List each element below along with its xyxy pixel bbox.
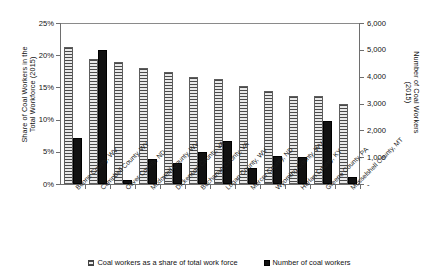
right-tick-4000: 4,000	[367, 72, 401, 81]
right-tick--: -	[367, 180, 401, 189]
legend-item-count: Number of coal workers	[264, 258, 351, 267]
right-tickmark	[360, 23, 364, 24]
legend-item-share: Coal workers as a share of total work fo…	[88, 258, 237, 267]
bar-count	[323, 121, 332, 184]
x-tickmark	[360, 185, 361, 189]
right-tickmark	[360, 104, 364, 105]
bar-group	[60, 23, 85, 184]
bar-count	[73, 138, 82, 184]
right-tickmark	[360, 50, 364, 51]
left-tick-25: 25%	[24, 19, 54, 28]
left-tick-5: 5%	[24, 147, 54, 156]
x-axis-category-labels: Boone County, WVCampbell County, WYOlive…	[60, 186, 360, 248]
left-tick-15: 15%	[24, 83, 54, 92]
chart-legend: Coal workers as a share of total work fo…	[0, 258, 439, 267]
right-tick-2000: 2,000	[367, 126, 401, 135]
left-tickmark	[56, 184, 60, 185]
right-axis-title: Number of Coal Workers (2015)	[404, 12, 421, 172]
left-tick-0: 0%	[24, 180, 54, 189]
right-tick-3000: 3,000	[367, 99, 401, 108]
left-tick-20: 20%	[24, 51, 54, 60]
left-tick-10: 10%	[24, 115, 54, 124]
right-tick-6000: 6,000	[367, 19, 401, 28]
hatched-square-icon	[88, 260, 94, 266]
coal-workers-chart: Share of Coal Workers in the Total Workf…	[0, 0, 439, 280]
legend-label-share: Coal workers as a share of total work fo…	[97, 258, 237, 267]
right-tick-5000: 5,000	[367, 45, 401, 54]
right-tickmark	[360, 130, 364, 131]
bar-share	[64, 47, 73, 184]
right-tickmark	[360, 77, 364, 78]
legend-label-count: Number of coal workers	[273, 258, 351, 267]
filled-square-icon	[264, 260, 270, 266]
